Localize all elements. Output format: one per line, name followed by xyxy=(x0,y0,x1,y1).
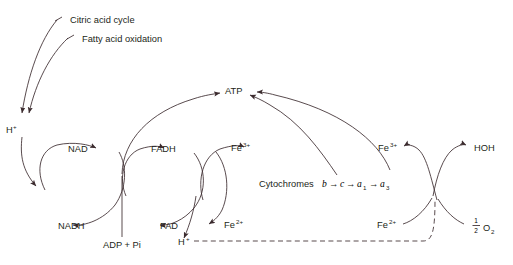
half-o2-base: O xyxy=(483,223,490,233)
fe2-mid-base: Fe xyxy=(224,220,235,230)
label-atp: ATP xyxy=(225,86,242,96)
label-nad: NAD xyxy=(68,144,88,154)
input-arrows-group xyxy=(22,20,68,113)
atp-arrows-group xyxy=(122,92,390,175)
cytochrome-to-atp-arrow-inner xyxy=(250,95,337,175)
fe3-right-base: Fe xyxy=(378,143,389,153)
fadh-to-fad-arc xyxy=(160,153,203,225)
fe2-right-sup: 2+ xyxy=(389,218,396,225)
label-fe2-mid: Fe 2+ xyxy=(224,218,243,230)
cytochrome-sub-a1: 1 xyxy=(363,184,367,191)
citric-leader xyxy=(55,17,62,21)
label-citric-acid-cycle: Citric acid cycle xyxy=(70,15,135,25)
fatty-leader xyxy=(67,35,74,39)
half-o2-denominator: 2 xyxy=(474,227,478,234)
h-plus-bottom-sup: + xyxy=(186,235,190,242)
h-plus-bottom-base: H xyxy=(178,237,185,247)
half-o2-sub: 2 xyxy=(491,228,495,235)
label-h-plus-left: H + xyxy=(6,123,17,135)
h-plus-left-base: H xyxy=(6,125,13,135)
label-fe3-mid: Fe 3+ xyxy=(231,141,250,153)
electron-transport-chain-diagram: Citric acid cycle Fatty acid oxidation H… xyxy=(0,0,513,265)
fe2-right-base: Fe xyxy=(377,220,388,230)
cytochrome-letter-b: b xyxy=(322,178,327,189)
cytochrome-letter-a1: a xyxy=(357,178,362,189)
label-half-o2: 1 2 O 2 xyxy=(473,217,496,235)
label-cytochromes: Cytochromes b → c → a 1 → a 3 xyxy=(259,178,390,191)
label-fad: FAD xyxy=(160,221,178,231)
fe3-mid-sup: 3+ xyxy=(243,141,250,148)
cytochrome-letter-a3: a xyxy=(380,178,385,189)
label-nadh: NADH xyxy=(58,221,84,231)
cytochrome-arrow-1: → xyxy=(329,179,338,189)
half-o2-numerator: 1 xyxy=(474,217,478,224)
fe2-mid-sup: 2+ xyxy=(236,218,243,225)
loop-to-atp-arrow xyxy=(122,93,220,174)
citric-acid-cycle-arrow xyxy=(22,20,57,113)
diagram-canvas: Citric acid cycle Fatty acid oxidation H… xyxy=(0,0,513,265)
fe-to-hplus-arrow xyxy=(184,196,196,238)
nad-to-nadh-arc xyxy=(73,152,125,225)
fe-mid-loop xyxy=(184,146,244,238)
o2-inflow xyxy=(438,199,464,224)
h-plus-left-sup: + xyxy=(13,123,17,130)
label-fadh: FADH xyxy=(151,144,176,154)
label-h-plus-bottom: H + xyxy=(178,235,190,247)
fe2r-inflow xyxy=(403,198,432,224)
fe2r-to-fe3r-arc xyxy=(404,145,437,200)
fe3-right-sup: 3+ xyxy=(390,141,397,148)
cytochrome-arrow-2: → xyxy=(346,179,355,189)
o2-to-hoh-arc xyxy=(433,145,466,196)
label-fe2-right: Fe 2+ xyxy=(377,218,396,230)
cytochrome-arrow-3: → xyxy=(369,179,378,189)
hplus-to-nadh-arrow xyxy=(21,137,36,186)
cytochrome-to-atp-arrow-outer xyxy=(257,92,390,170)
cytochromes-prefix: Cytochromes xyxy=(259,179,314,189)
label-adp-pi: ADP + Pi xyxy=(103,240,141,250)
fatty-acid-oxidation-arrow xyxy=(29,38,68,113)
cytochrome-letter-c: c xyxy=(340,178,345,189)
fadh-fad-loop xyxy=(122,146,203,225)
fe3-mid-base: Fe xyxy=(231,143,242,153)
label-fatty-acid-oxidation: Fatty acid oxidation xyxy=(82,34,162,44)
cytochrome-sub-a3: 3 xyxy=(386,184,390,191)
fe2-to-fe3-arc xyxy=(201,146,244,200)
fe3-to-fe2-arc xyxy=(209,152,227,224)
label-fe3-right: Fe 3+ xyxy=(378,141,397,153)
nad-nadh-loop xyxy=(40,143,125,225)
label-hoh: HOH xyxy=(474,143,495,153)
